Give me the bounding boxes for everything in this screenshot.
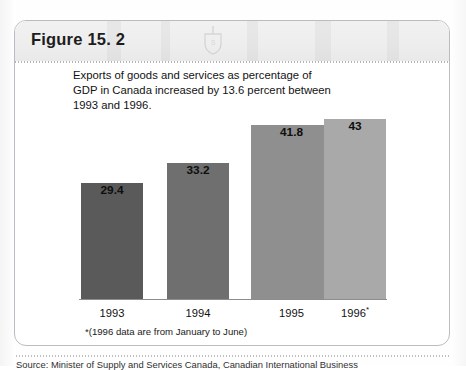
source-line: Source: Minister of Supply and Services … (16, 359, 450, 370)
x-tick-label-text: 1996 (341, 307, 366, 319)
x-tick-1993: 1993 (81, 307, 143, 319)
x-tick-label-text: 1995 (279, 307, 304, 319)
chart-footnote: *(1996 data are from January to June) (85, 326, 247, 337)
x-axis-line (79, 299, 387, 300)
bar-1995 (251, 125, 332, 299)
x-tick-footnote-marker: * (366, 305, 369, 314)
bar-value-1994: 33.2 (167, 163, 229, 177)
x-tick-1994: 1994 (167, 307, 229, 319)
bar-chart: 29.4 33.2 41.8 43 1993 1994 1995 1996* (15, 21, 450, 346)
figure-frame: S Figure 15. 2 Exports of goods and serv… (14, 20, 450, 346)
source-divider (16, 355, 450, 357)
bar-1996 (324, 119, 386, 299)
x-tick-1996: 1996* (324, 305, 386, 319)
bar-value-1993: 29.4 (81, 183, 143, 197)
x-tick-label-text: 1994 (186, 307, 211, 319)
bar-1994 (167, 163, 229, 299)
page-edge-right (450, 0, 466, 366)
bar-value-1996: 43 (324, 119, 386, 133)
bar-1993 (81, 183, 143, 299)
x-tick-label-text: 1993 (100, 307, 125, 319)
bar-value-1995: 41.8 (251, 125, 332, 139)
x-tick-1995: 1995 (251, 307, 332, 319)
